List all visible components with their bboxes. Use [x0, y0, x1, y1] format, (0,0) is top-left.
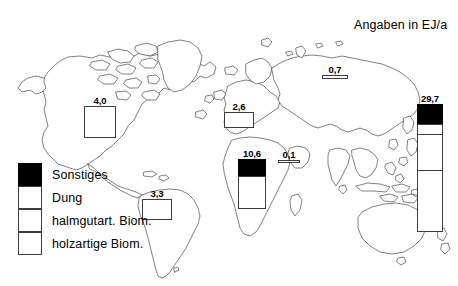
legend-item-dung: Dung — [18, 186, 152, 209]
bar-asien: 29,7 — [417, 104, 443, 232]
bar-segment-holzartig — [322, 75, 348, 79]
legend-swatch-dung — [18, 186, 42, 209]
legend-swatch-holzartig — [18, 232, 42, 255]
world-biomass-map-figure: Angaben in EJ/a 4,0 3,3 2,6 10,6 0,1 0,7… — [0, 0, 458, 286]
bar-segment-sonstiges — [238, 159, 266, 176]
bar-europa: 2,6 — [224, 112, 254, 128]
bar-russland: 0,7 — [322, 75, 348, 79]
legend-label-sonstiges: Sonstiges — [52, 168, 108, 182]
bar-segment-holzartig — [224, 112, 254, 128]
legend-item-holzartig: holzartige Biom. — [18, 232, 152, 255]
bar-segment-holzartig — [84, 106, 116, 138]
bar-value-asien: 29,7 — [421, 93, 439, 104]
chart-title: Angaben in EJ/a — [354, 18, 447, 32]
legend-item-sonstiges: Sonstiges — [18, 163, 152, 186]
bar-naher-osten: 0,1 — [278, 160, 300, 163]
bar-segment-sonstiges — [417, 104, 443, 124]
legend-label-dung: Dung — [52, 191, 82, 205]
bar-value-nordamerika: 4,0 — [94, 95, 107, 106]
bar-segment-dung — [417, 124, 443, 134]
bar-value-europa: 2,6 — [233, 101, 246, 112]
bar-segment-holzartig — [238, 176, 266, 210]
bar-value-russland: 0,7 — [329, 64, 342, 75]
legend-item-halmgutart: halmgutart. Biom. — [18, 209, 152, 232]
bar-segment-holzartig — [278, 160, 300, 163]
legend-label-holzartig: holzartige Biom. — [52, 237, 143, 251]
bar-nordamerika: 4,0 — [84, 106, 116, 138]
bar-value-afrika: 10,6 — [243, 148, 261, 159]
bar-segment-halmgutart — [417, 134, 443, 170]
bar-segment-holzartig — [417, 170, 443, 232]
bar-afrika: 10,6 — [238, 159, 266, 209]
legend: Sonstiges Dung halmgutart. Biom. holzart… — [18, 163, 152, 255]
legend-swatch-halmgutart — [18, 209, 42, 232]
legend-swatch-sonstiges — [18, 163, 42, 186]
bar-value-naher-osten: 0,1 — [283, 149, 296, 160]
legend-label-halmgutart: halmgutart. Biom. — [52, 214, 152, 228]
bar-value-suedamerika: 3,3 — [151, 188, 164, 199]
